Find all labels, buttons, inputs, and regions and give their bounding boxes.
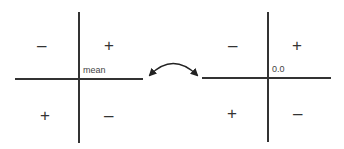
double-headed-curved-arrow-icon — [0, 0, 344, 149]
